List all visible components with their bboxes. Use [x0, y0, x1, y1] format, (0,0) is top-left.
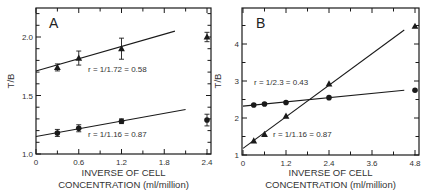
y-tick-label: 1 — [235, 151, 240, 160]
x-axis-title-line1: INVERSE OF CELL — [82, 167, 166, 178]
fit-annotation: r = 1/1.16 = 0.87 — [88, 130, 147, 139]
series-triangles: r = 1/1.72 = 0.58 — [36, 31, 210, 74]
circle-marker — [283, 100, 289, 106]
y-tick-label: 2.0 — [22, 33, 34, 42]
circle-marker — [251, 102, 257, 108]
x-axis-title-line2: CONCENTRATION (ml/million) — [265, 179, 396, 190]
y-tick-label: 1.5 — [22, 92, 34, 101]
circle-marker — [119, 118, 125, 124]
y-axis-title: T/B — [5, 74, 16, 89]
circle-marker — [326, 95, 332, 101]
x-axis-title-line2: CONCENTRATION (ml/million) — [58, 179, 189, 190]
y-axis-title: T/B — [212, 74, 223, 89]
circle-marker — [204, 117, 210, 123]
x-tick-label: 1.8 — [159, 158, 171, 167]
panel-letter: B — [256, 15, 265, 31]
fit-annotation: r = 1/1.72 = 0.58 — [88, 65, 147, 74]
triangle-marker — [54, 64, 61, 70]
panel-letter: A — [49, 15, 59, 31]
y-tick-label: 2 — [235, 114, 240, 123]
series-circles: r = 1/1.16 = 0.87 — [36, 110, 210, 139]
circle-marker — [55, 130, 61, 136]
circle-marker — [76, 125, 82, 131]
panel-a: 1.01.52.000.61.21.82.4INVERSE OF CELLCON… — [5, 8, 213, 190]
y-tick-label: 4 — [235, 40, 240, 49]
x-tick-label: 2.4 — [201, 158, 213, 167]
circle-marker — [262, 101, 268, 107]
figure: 1.01.52.000.61.21.82.4INVERSE OF CELLCON… — [0, 0, 427, 194]
x-tick-label: 4.8 — [409, 159, 421, 168]
y-tick-label: 3 — [235, 77, 240, 86]
panel-b: 123401.22.43.64.8INVERSE OF CELLCONCENTR… — [212, 8, 421, 190]
x-tick-label: 1.2 — [116, 158, 128, 167]
y-tick-label: 1.0 — [22, 150, 34, 159]
circle-marker — [412, 87, 418, 93]
x-tick-label: 0.6 — [73, 158, 85, 167]
fit-annotation: r = 1/2.3 = 0.43 — [254, 78, 309, 87]
x-axis-title-line1: INVERSE OF CELL — [289, 167, 373, 178]
x-tick-label: 0 — [241, 159, 246, 168]
series-circles: r = 1/2.3 = 0.43 — [243, 78, 418, 108]
x-tick-label: 0 — [34, 158, 39, 167]
fit-annotation: r = 1/1.16 = 0.87 — [273, 130, 332, 139]
